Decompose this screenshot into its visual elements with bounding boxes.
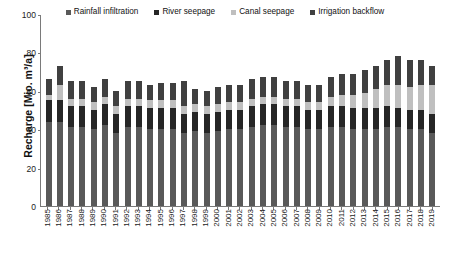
bar-column[interactable] — [302, 15, 313, 206]
bar-column[interactable] — [156, 15, 167, 206]
x-axis-label-cell: 2001 — [223, 209, 234, 253]
x-axis-label-cell: 1992 — [121, 209, 132, 253]
bar-segment — [384, 106, 390, 127]
bar-segment — [91, 102, 97, 110]
bar-segment — [226, 129, 232, 206]
bar-segment — [407, 110, 413, 129]
bar-stack — [260, 77, 266, 206]
x-axis-tick-label: 1995 — [157, 209, 165, 227]
x-axis-tick-label: 2001 — [225, 209, 233, 227]
bar-segment — [215, 104, 221, 112]
bar-column[interactable] — [99, 15, 110, 206]
bar-column[interactable] — [212, 15, 223, 206]
bar-column[interactable] — [88, 15, 99, 206]
x-axis-label-cell: 2005 — [268, 209, 279, 253]
bar-segment — [125, 81, 131, 98]
bar-column[interactable] — [257, 15, 268, 206]
bar-stack — [158, 83, 164, 206]
bar-segment — [362, 70, 368, 93]
bar-segment — [57, 85, 63, 100]
x-axis-label-cell: 2006 — [280, 209, 291, 253]
x-axis-label-cell: 1994 — [144, 209, 155, 253]
bar-column[interactable] — [325, 15, 336, 206]
bar-column[interactable] — [190, 15, 201, 206]
bar-stack — [204, 91, 210, 206]
x-axis-label-cell: 2002 — [234, 209, 245, 253]
bar-column[interactable] — [122, 15, 133, 206]
x-axis-label-cell: 1991 — [110, 209, 121, 253]
bar-segment — [249, 106, 255, 127]
bar-column[interactable] — [404, 15, 415, 206]
bar-stack — [136, 81, 142, 206]
bar-stack — [316, 85, 322, 206]
bar-column[interactable] — [427, 15, 438, 206]
bar-column[interactable] — [54, 15, 65, 206]
bar-column[interactable] — [246, 15, 257, 206]
bar-column[interactable] — [201, 15, 212, 206]
bar-segment — [147, 129, 153, 206]
bar-stack — [283, 81, 289, 206]
bar-column[interactable] — [393, 15, 404, 206]
bar-segment — [283, 127, 289, 206]
bar-stack — [237, 85, 243, 206]
bar-stack — [249, 79, 255, 206]
bar-segment — [339, 74, 345, 95]
bar-column[interactable] — [167, 15, 178, 206]
bar-segment — [237, 102, 243, 110]
bar-segment — [204, 91, 210, 106]
bar-column[interactable] — [133, 15, 144, 206]
x-axis-tick-label: 1986 — [55, 209, 63, 227]
x-axis-tick-label: 1998 — [191, 209, 199, 227]
bar-segment — [294, 81, 300, 98]
bar-segment — [350, 74, 356, 95]
bar-segment — [192, 112, 198, 131]
bar-segment — [125, 106, 131, 127]
bar-segment — [316, 129, 322, 206]
bar-column[interactable] — [359, 15, 370, 206]
bar-column[interactable] — [280, 15, 291, 206]
bar-stack — [362, 70, 368, 206]
x-axis-tick-label: 1993 — [134, 209, 142, 227]
bar-column[interactable] — [224, 15, 235, 206]
bar-column[interactable] — [178, 15, 189, 206]
bar-column[interactable] — [111, 15, 122, 206]
bar-segment — [373, 66, 379, 89]
bar-segment — [192, 131, 198, 206]
bar-segment — [271, 125, 277, 206]
x-axis-label-cell: 2011 — [336, 209, 347, 253]
bar-segment — [170, 100, 176, 108]
bar-column[interactable] — [336, 15, 347, 206]
bar-column[interactable] — [291, 15, 302, 206]
bar-segment — [271, 77, 277, 96]
bar-column[interactable] — [370, 15, 381, 206]
recharge-stacked-bar-chart: Recharge [Mio. m³/a] 100806040200 198519… — [0, 0, 450, 253]
bar-segment — [136, 81, 142, 98]
bar-column[interactable] — [145, 15, 156, 206]
bar-column[interactable] — [314, 15, 325, 206]
bar-segment — [395, 56, 401, 85]
bar-column[interactable] — [415, 15, 426, 206]
bar-segment — [316, 85, 322, 102]
bar-column[interactable] — [381, 15, 392, 206]
bar-column[interactable] — [235, 15, 246, 206]
bar-segment — [215, 87, 221, 104]
bar-segment — [158, 108, 164, 129]
bar-segment — [418, 85, 424, 110]
bar-segment — [237, 129, 243, 206]
bar-column[interactable] — [43, 15, 54, 206]
bar-segment — [125, 127, 131, 206]
x-axis-tick-label: 2017 — [406, 209, 414, 227]
bar-segment — [158, 129, 164, 206]
bar-column[interactable] — [77, 15, 88, 206]
x-axis-tick-label: 2007 — [293, 209, 301, 227]
x-axis-tick-label: 2004 — [259, 209, 267, 227]
x-axis-tick-label: 2006 — [281, 209, 289, 227]
bar-segment — [328, 97, 334, 107]
bar-column[interactable] — [269, 15, 280, 206]
bar-segment — [350, 129, 356, 206]
bar-segment — [46, 122, 52, 206]
x-axis-tick-label: 2016 — [394, 209, 402, 227]
bar-column[interactable] — [348, 15, 359, 206]
bar-column[interactable] — [66, 15, 77, 206]
bar-segment — [316, 110, 322, 129]
